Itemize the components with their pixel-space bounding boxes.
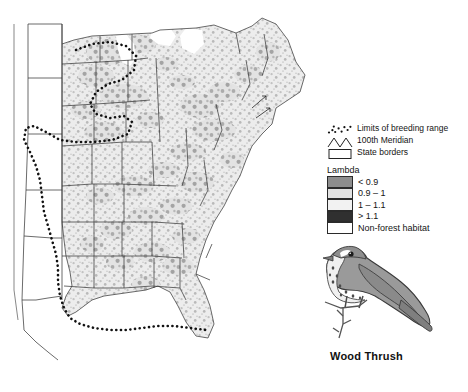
legend-label-meridian: 100th Meridian <box>357 135 413 145</box>
swatch-non-forest <box>327 222 353 234</box>
legend-panel: Limits of breeding range 100th Meridian … <box>327 122 468 234</box>
legend-label-non-forest: Non-forest habitat <box>358 223 430 233</box>
legend-symbol-breeding-limit: Limits of breeding range <box>327 122 468 134</box>
dotted-line-icon <box>327 122 353 134</box>
legend-class-row: Non-forest habitat <box>327 222 468 234</box>
legend-class-row: < 0.9 <box>327 176 468 188</box>
legend-symbol-meridian: 100th Meridian <box>327 134 468 146</box>
legend-label-gt-1-1: > 1.1 <box>358 211 378 221</box>
legend-symbol-state-borders: State borders <box>327 146 468 158</box>
bird-eye <box>348 251 353 256</box>
state-border-icon <box>327 146 353 158</box>
legend-label-breeding-limit: Limits of breeding range <box>357 123 448 133</box>
swatch-1-to-1-1 <box>327 199 353 211</box>
meridian-line-icon <box>327 134 353 146</box>
swatch-lt-0-9 <box>327 176 353 188</box>
legend-lambda-title: Lambda <box>327 165 468 175</box>
legend-class-row: 1 – 1.1 <box>327 199 468 211</box>
legend-label-0-9-to-1: 0.9 – 1 <box>358 188 386 198</box>
legend-label-1-to-1-1: 1 – 1.1 <box>358 200 386 210</box>
legend-label-state-borders: State borders <box>357 147 408 157</box>
swatch-gt-1-1 <box>327 211 353 223</box>
legend-label-lt-0-9: < 0.9 <box>358 177 378 187</box>
legend-class-row: 0.9 – 1 <box>327 188 468 200</box>
swatch-0-9-to-1 <box>327 188 353 200</box>
figure-root: Limits of breeding range 100th Meridian … <box>0 0 468 392</box>
species-label: Wood Thrush <box>330 350 403 362</box>
legend-class-row: > 1.1 <box>327 211 468 223</box>
wood-thrush-illustration <box>297 238 437 343</box>
map-svg <box>0 0 330 370</box>
map-panel <box>0 0 330 370</box>
